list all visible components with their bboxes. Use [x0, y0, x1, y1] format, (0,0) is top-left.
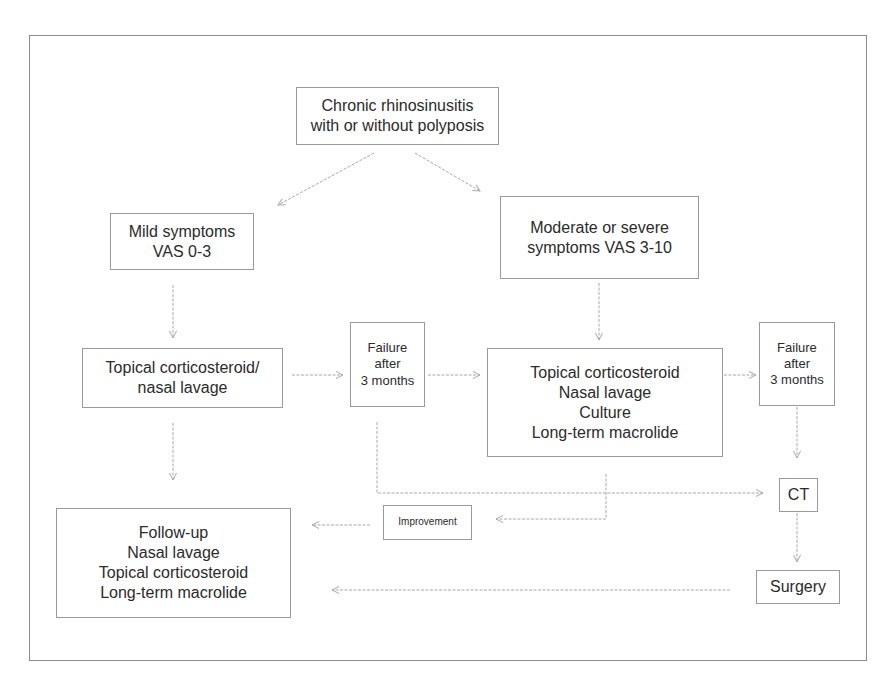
node-text-line: Topical corticosteroid — [99, 563, 248, 583]
node-moderate-severe-symptoms: Moderate or severe symptoms VAS 3-10 — [500, 196, 699, 279]
node-text-line: nasal lavage — [138, 378, 228, 398]
node-follow-up: Follow-up Nasal lavage Topical corticost… — [56, 508, 291, 618]
node-chronic-rhinosinusitis: Chronic rhinosinusitis with or without p… — [296, 87, 499, 145]
node-text-line: Topical corticosteroid — [530, 363, 679, 383]
node-ct: CT — [779, 478, 818, 512]
node-text-line: Follow-up — [139, 523, 208, 543]
node-text-line: VAS 0-3 — [153, 242, 211, 262]
node-surgery: Surgery — [756, 570, 840, 604]
node-text-line: 3 months — [770, 372, 823, 388]
node-text-line: Failure — [777, 340, 817, 356]
node-text-line: Improvement — [398, 516, 456, 529]
node-text-line: Nasal lavage — [559, 383, 652, 403]
arrow-root-to-mild — [278, 153, 374, 205]
node-text-line: Chronic rhinosinusitis — [321, 96, 473, 116]
node-text-line: after — [374, 356, 400, 372]
node-text-line: Mild symptoms — [129, 222, 236, 242]
node-text-line: with or without polyposis — [311, 116, 484, 136]
arrow-topical-full-to-improvement — [496, 474, 606, 519]
node-mild-symptoms: Mild symptoms VAS 0-3 — [110, 213, 254, 270]
node-text-line: symptoms VAS 3-10 — [527, 238, 672, 258]
node-text-line: CT — [788, 485, 809, 505]
node-text-line: after — [784, 356, 810, 372]
node-text-line: Long-term macrolide — [532, 423, 679, 443]
node-text-line: 3 months — [361, 373, 414, 389]
node-text-line: Moderate or severe — [530, 218, 669, 238]
node-text-line: Topical corticosteroid/ — [106, 358, 260, 378]
arrow-root-to-moderate — [415, 153, 480, 191]
node-text-line: Long-term macrolide — [100, 583, 247, 603]
node-improvement: Improvement — [383, 505, 472, 540]
node-failure-after-3-months-2: Failure after 3 months — [759, 322, 835, 406]
node-failure-after-3-months-1: Failure after 3 months — [350, 322, 425, 407]
node-text-line: Failure — [368, 340, 408, 356]
node-topical-corticosteroid-nasal-lavage: Topical corticosteroid/ nasal lavage — [82, 348, 283, 408]
node-text-line: Nasal lavage — [127, 543, 220, 563]
node-text-line: Culture — [579, 403, 631, 423]
node-text-line: Surgery — [770, 577, 826, 597]
node-topical-corticosteroid-culture-macrolide: Topical corticosteroid Nasal lavage Cult… — [487, 348, 723, 457]
